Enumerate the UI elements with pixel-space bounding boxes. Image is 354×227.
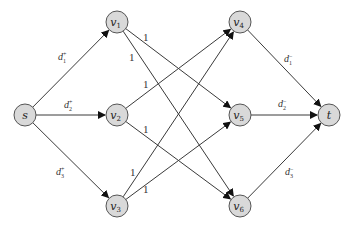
node-v2: v2 <box>106 104 128 126</box>
edge-label-v3-v5: 1 <box>143 183 149 195</box>
edge-label-v1-v5: 1 <box>143 31 149 43</box>
edge-label-s-v3: d+3 <box>56 166 65 179</box>
node-label: t <box>327 109 332 122</box>
edge-label-v2-v6: 1 <box>143 123 149 135</box>
edge-label-v2-v4: 1 <box>143 78 149 90</box>
flow-network-diagram: d+1d+2d+3111111d−1d−2d−3 sv1v2v3v4v5v6t <box>0 0 354 227</box>
node-label: s <box>22 109 28 122</box>
node-v4: v4 <box>229 11 251 33</box>
edges-layer <box>33 29 321 200</box>
edge-label-s-v1: d+1 <box>58 51 67 64</box>
edge-label-v6-t: d−3 <box>285 166 294 179</box>
node-s: s <box>14 104 36 126</box>
node-t: t <box>318 104 340 126</box>
diagram-canvas: d+1d+2d+3111111d−1d−2d−3 sv1v2v3v4v5v6t <box>0 0 354 227</box>
edge-label-v3-v4: 1 <box>130 166 136 178</box>
node-v3: v3 <box>106 195 128 217</box>
node-v6: v6 <box>229 195 251 217</box>
nodes-layer: sv1v2v3v4v5v6t <box>14 11 340 217</box>
node-v5: v5 <box>229 104 251 126</box>
edge-label-v4-t: d−1 <box>284 53 293 66</box>
edge-label-v1-v6: 1 <box>129 51 135 63</box>
edge-labels-layer: d+1d+2d+3111111d−1d−2d−3 <box>56 31 294 195</box>
edge-v4-t <box>248 30 321 106</box>
edge-label-v5-t: d−2 <box>278 98 287 111</box>
edge-s-v1 <box>33 31 109 108</box>
edge-v6-t <box>248 124 321 199</box>
edge-label-s-v2: d+2 <box>64 99 73 112</box>
node-v1: v1 <box>106 11 128 33</box>
edge-s-v3 <box>33 123 109 198</box>
